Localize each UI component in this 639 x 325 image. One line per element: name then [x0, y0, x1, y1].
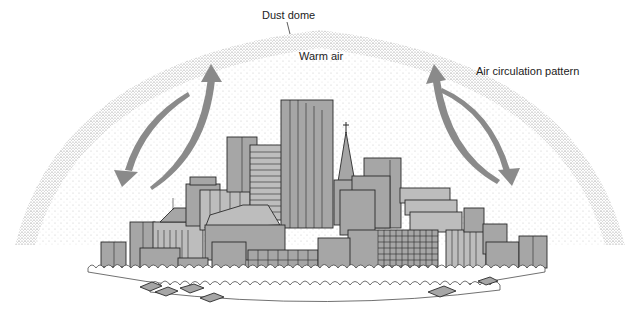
dust-dome-diagram: Dust dome Warm air Air circulation patte… [0, 0, 639, 325]
warm-air-label: Warm air [299, 50, 343, 62]
illustration [0, 0, 639, 325]
dust-dome-leader [287, 22, 290, 34]
air-circulation-label: Air circulation pattern [476, 65, 579, 77]
trees [88, 265, 545, 302]
dust-dome-label: Dust dome [262, 9, 315, 21]
